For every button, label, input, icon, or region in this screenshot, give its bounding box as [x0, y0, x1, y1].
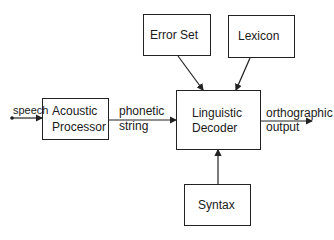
linguistic-decoder-box — [176, 90, 261, 150]
error-set-label: Error Set — [150, 28, 198, 42]
orthographic-label-1: orthographic — [266, 106, 333, 120]
orthographic-label-2: output — [266, 120, 299, 134]
syntax-label: Syntax — [198, 198, 235, 212]
acoustic-processor-label-1: Acoustic — [52, 104, 97, 118]
lexicon-label: Lexicon — [238, 29, 279, 43]
phonetic-label-1: phonetic — [119, 104, 164, 118]
linguistic-decoder-label-1: Linguistic — [192, 106, 242, 120]
linguistic-decoder-label-2: Decoder — [192, 121, 237, 135]
lexicon-arrow — [236, 58, 250, 90]
acoustic-processor-label-2: Processor — [52, 120, 106, 134]
errorset-arrow — [178, 56, 203, 90]
speech-label: speech — [13, 103, 48, 117]
phonetic-label-2: string — [119, 119, 148, 133]
